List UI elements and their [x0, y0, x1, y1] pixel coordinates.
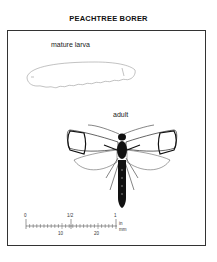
scale-label-20-mm: 20: [94, 231, 99, 236]
scale-label-0-in: 0: [24, 213, 27, 218]
scale-label-10-mm: 10: [58, 231, 63, 236]
scale-label-half-in: 1/2: [67, 213, 73, 218]
illustration: [0, 0, 217, 262]
larva-illustration: [27, 62, 135, 88]
scale-bar: [26, 219, 117, 229]
scale-unit-mm: mm: [119, 227, 127, 232]
scale-unit-in: in: [119, 221, 123, 226]
adult-moth-illustration: [67, 125, 177, 208]
scale-label-1-in: 1: [114, 213, 117, 218]
